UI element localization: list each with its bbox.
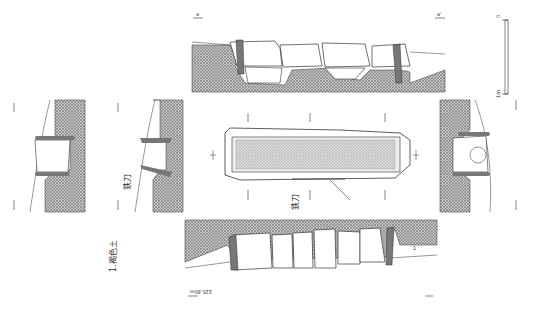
cross-section-c <box>30 100 85 212</box>
top-section <box>192 40 445 92</box>
excavation-drawing: 1 鉄刀 鉄刀 <box>0 0 533 311</box>
cross-section-e <box>440 100 491 212</box>
scale-bottom-label: 1m <box>495 90 501 98</box>
soil-legend: 1.褐色土 <box>108 240 118 272</box>
scale-top-label: 0 <box>495 15 501 18</box>
cross-section-d: 鉄刀 <box>122 100 183 212</box>
layer-label-bottom: 1 <box>413 245 416 251</box>
scale-bar: 0 1m <box>495 15 508 98</box>
marker-a-prime: a' <box>437 11 441 17</box>
iron-sword-label-plan: 鉄刀 <box>290 194 300 210</box>
bottom-section: 1 <box>185 220 437 270</box>
elevation-label: 225.80m <box>190 289 212 295</box>
marker-a: a <box>196 11 199 17</box>
iron-sword-label-section: 鉄刀 <box>122 174 132 190</box>
plan-view: 鉄刀 <box>210 128 419 210</box>
